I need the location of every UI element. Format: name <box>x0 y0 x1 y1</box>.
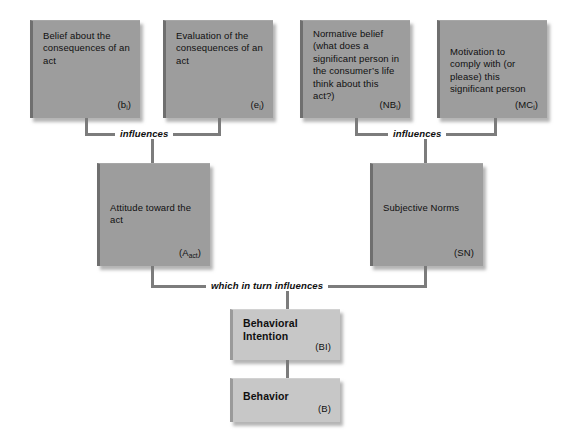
box-evaluation-consequences-tag: (ei) <box>251 99 265 112</box>
caption-which-in-turn-influences: which in turn influences <box>206 280 328 291</box>
box-behavioral-intention[interactable]: Behavioral Intention (BI) <box>230 309 340 360</box>
box-motivation-to-comply[interactable]: Motivation to comply with (or please) th… <box>437 20 547 118</box>
box-subjective-norms-tag: (SN) <box>454 247 474 260</box>
box-attitude-toward-act-text: Attitude toward the act <box>110 202 201 227</box>
box-attitude-toward-act[interactable]: Attitude toward the act (Aact) <box>97 163 210 266</box>
box-belief-consequences-text: Belief about the consequences of an act <box>43 30 131 67</box>
connector-intention-to-behavior <box>286 360 289 378</box>
box-normative-belief-text: Normative belief (what does a significan… <box>313 28 401 102</box>
caption-influences-right: influences <box>388 128 446 139</box>
box-behavior-tag: (B) <box>318 402 331 416</box>
box-attitude-toward-act-tag: (Aact) <box>179 247 201 260</box>
box-normative-belief[interactable]: Normative belief (what does a significan… <box>300 20 410 118</box>
box-behavior-text: Behavior <box>243 390 331 403</box>
box-motivation-to-comply-text: Motivation to comply with (or please) th… <box>450 46 538 96</box>
diagram-canvas: Belief about the consequences of an act … <box>0 0 574 439</box>
box-behavioral-intention-text: Behavioral Intention <box>243 317 331 343</box>
caption-influences-left: influences <box>115 128 173 139</box>
box-subjective-norms-text: Subjective Norms <box>383 202 474 214</box>
box-motivation-to-comply-tag: (MCi) <box>515 99 538 112</box>
box-belief-consequences[interactable]: Belief about the consequences of an act … <box>30 20 140 118</box>
box-belief-consequences-tag: (bi) <box>118 99 132 112</box>
box-subjective-norms[interactable]: Subjective Norms (SN) <box>370 163 483 266</box>
box-evaluation-consequences[interactable]: Evaluation of the consequences of an act… <box>163 20 273 118</box>
box-evaluation-consequences-text: Evaluation of the consequences of an act <box>176 30 264 67</box>
box-behavior[interactable]: Behavior (B) <box>230 378 340 422</box>
